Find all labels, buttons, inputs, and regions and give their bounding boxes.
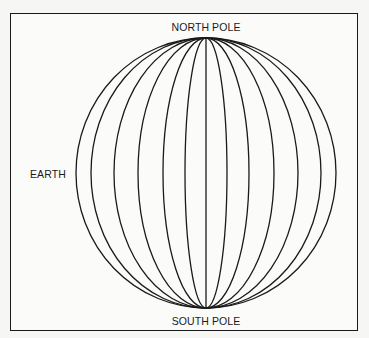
north-pole-label: NORTH POLE <box>171 22 240 33</box>
meridian-west <box>91 38 206 308</box>
meridian-east <box>206 38 298 308</box>
meridian-west <box>185 38 206 308</box>
meridian-east <box>206 38 321 308</box>
meridian-west <box>138 38 206 308</box>
meridian-east <box>206 38 274 308</box>
earth-label: EARTH <box>30 169 66 180</box>
south-pole-label: SOUTH POLE <box>172 316 241 327</box>
meridian-east <box>206 38 227 308</box>
meridian-west <box>114 38 206 308</box>
meridian-lines <box>76 38 336 308</box>
